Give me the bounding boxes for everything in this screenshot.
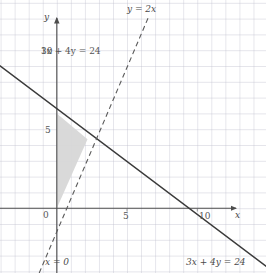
line-label-x-0: x = 0 xyxy=(45,258,69,267)
y-tick-label-5: 5 xyxy=(45,126,51,135)
y-axis-label: y xyxy=(44,13,49,22)
x-tick-label-0: 0 xyxy=(43,211,49,220)
x-tick-label-5: 5 xyxy=(123,212,129,221)
graph-figure: y x 3x + 4y = 24 10 5 0 5 10 y = 2x x = … xyxy=(0,0,266,273)
grid-background xyxy=(0,0,266,273)
line-label-3x-4y-24: 3x + 4y = 24 xyxy=(186,258,246,267)
x-tick-label-10: 10 xyxy=(199,212,210,221)
y-tick-label-10: 10 xyxy=(41,47,52,56)
line-label-y-2x: y = 2x xyxy=(127,5,156,14)
coordinate-plot xyxy=(0,0,266,273)
x-axis-label: x xyxy=(235,211,240,220)
